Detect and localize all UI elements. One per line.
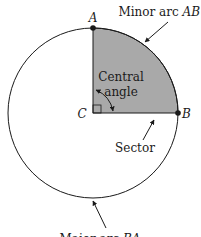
major-arc-label: Major arc BA xyxy=(60,232,141,237)
sector-arrow xyxy=(143,120,154,140)
minor-arc-arrow xyxy=(145,22,168,42)
label-c: C xyxy=(77,107,86,121)
point-a xyxy=(90,25,96,31)
central-angle-label-line2: angle xyxy=(104,85,138,99)
major-arc-arrow xyxy=(93,201,106,228)
label-a: A xyxy=(88,11,98,25)
central-angle-label-line1: Central xyxy=(98,70,144,84)
minor-arc-label: Minor arc AB xyxy=(118,5,200,19)
point-b xyxy=(175,110,181,116)
circle-sector-diagram: A B C Minor arc AB Central angle Sector … xyxy=(0,0,201,237)
sector-label: Sector xyxy=(115,141,155,155)
label-b: B xyxy=(181,107,191,121)
